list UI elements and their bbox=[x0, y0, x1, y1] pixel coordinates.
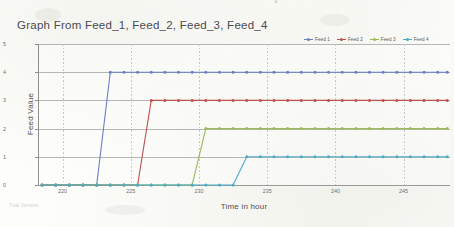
series-marker bbox=[259, 99, 262, 102]
series-marker bbox=[395, 71, 398, 74]
x-tick-label: 230 bbox=[194, 188, 203, 194]
series-marker bbox=[191, 71, 194, 74]
series-line bbox=[42, 157, 447, 185]
series-marker bbox=[446, 127, 449, 130]
series-marker bbox=[136, 71, 139, 74]
series-marker bbox=[109, 71, 112, 74]
series-marker bbox=[150, 99, 153, 102]
series-marker bbox=[95, 184, 98, 187]
series-marker bbox=[423, 99, 426, 102]
series-marker bbox=[177, 184, 180, 187]
series-layer bbox=[38, 44, 450, 185]
series-marker bbox=[286, 99, 289, 102]
series-marker bbox=[232, 99, 235, 102]
series-marker bbox=[368, 99, 371, 102]
series-marker bbox=[218, 99, 221, 102]
series-marker bbox=[423, 155, 426, 158]
series-marker bbox=[354, 155, 357, 158]
series-marker bbox=[423, 71, 426, 74]
plot-area: 012345 220225230235240245 Feed Value Tim… bbox=[38, 44, 450, 185]
series-marker bbox=[150, 71, 153, 74]
series-marker bbox=[204, 99, 207, 102]
y-tick-label: 1 bbox=[0, 154, 6, 160]
legend-item-feed-1[interactable]: Feed 1 bbox=[304, 37, 330, 42]
series-marker bbox=[286, 71, 289, 74]
series-marker bbox=[163, 184, 166, 187]
legend-swatch-icon bbox=[304, 39, 313, 40]
chart-container: Graph From Feed_1, Feed_2, Feed_3, Feed_… bbox=[0, 0, 454, 227]
series-marker bbox=[436, 71, 439, 74]
series-marker bbox=[327, 127, 330, 130]
series-marker bbox=[122, 71, 125, 74]
series-marker bbox=[109, 184, 112, 187]
series-marker bbox=[232, 127, 235, 130]
y-tick-label: 2 bbox=[0, 126, 6, 132]
legend-swatch-icon bbox=[403, 39, 412, 40]
legend-swatch-icon bbox=[370, 39, 379, 40]
x-tick-label: 235 bbox=[263, 188, 272, 194]
series-marker bbox=[382, 71, 385, 74]
series-marker bbox=[232, 184, 235, 187]
series-marker bbox=[327, 99, 330, 102]
series-marker bbox=[191, 99, 194, 102]
legend-label: Feed 4 bbox=[414, 37, 429, 42]
series-marker bbox=[273, 127, 276, 130]
y-tick-label: 4 bbox=[0, 69, 6, 75]
y-tick-mark bbox=[35, 185, 38, 186]
series-marker bbox=[259, 155, 262, 158]
series-marker bbox=[341, 155, 344, 158]
series-marker bbox=[368, 71, 371, 74]
series-marker bbox=[300, 155, 303, 158]
series-marker bbox=[218, 184, 221, 187]
series-marker bbox=[409, 155, 412, 158]
series-marker bbox=[122, 184, 125, 187]
series-marker bbox=[313, 99, 316, 102]
series-marker bbox=[341, 71, 344, 74]
series-marker bbox=[204, 184, 207, 187]
series-marker bbox=[204, 127, 207, 130]
series-marker bbox=[395, 127, 398, 130]
x-axis-title: Time in hour bbox=[221, 202, 268, 211]
series-feed-4 bbox=[41, 155, 449, 186]
series-marker bbox=[54, 184, 57, 187]
series-marker bbox=[423, 127, 426, 130]
series-marker bbox=[218, 71, 221, 74]
series-marker bbox=[446, 71, 449, 74]
series-marker bbox=[273, 99, 276, 102]
series-marker bbox=[245, 155, 248, 158]
series-marker bbox=[286, 155, 289, 158]
legend-item-feed-2[interactable]: Feed 2 bbox=[337, 37, 363, 42]
y-axis-title: Feed Value bbox=[26, 93, 35, 135]
series-marker bbox=[218, 127, 221, 130]
series-marker bbox=[368, 127, 371, 130]
x-tick-label: 240 bbox=[331, 188, 340, 194]
series-marker bbox=[163, 71, 166, 74]
legend-item-feed-4[interactable]: Feed 4 bbox=[403, 37, 429, 42]
series-marker bbox=[313, 71, 316, 74]
series-marker bbox=[313, 155, 316, 158]
series-marker bbox=[341, 127, 344, 130]
series-marker bbox=[382, 155, 385, 158]
y-tick-label: 5 bbox=[0, 41, 6, 47]
series-marker bbox=[354, 99, 357, 102]
series-marker bbox=[41, 184, 44, 187]
series-line bbox=[42, 100, 447, 185]
series-marker bbox=[327, 155, 330, 158]
series-marker bbox=[245, 127, 248, 130]
series-marker bbox=[354, 71, 357, 74]
series-marker bbox=[163, 99, 166, 102]
series-marker bbox=[204, 71, 207, 74]
series-marker bbox=[245, 99, 248, 102]
series-marker bbox=[259, 127, 262, 130]
legend-label: Feed 2 bbox=[348, 37, 363, 42]
legend-swatch-icon bbox=[337, 39, 346, 40]
x-tick-label: 245 bbox=[399, 188, 408, 194]
series-marker bbox=[327, 71, 330, 74]
chart-title: Graph From Feed_1, Feed_2, Feed_3, Feed_… bbox=[17, 19, 268, 31]
series-marker bbox=[82, 184, 85, 187]
legend-item-feed-3[interactable]: Feed 3 bbox=[370, 37, 396, 42]
series-marker bbox=[273, 71, 276, 74]
series-marker bbox=[395, 155, 398, 158]
series-marker bbox=[68, 184, 71, 187]
series-marker bbox=[409, 127, 412, 130]
